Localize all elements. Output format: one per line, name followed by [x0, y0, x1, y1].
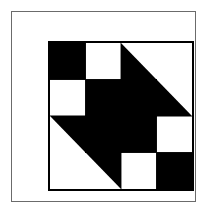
cell-r3c3-black	[156, 152, 192, 189]
cell-r2c2-black	[121, 116, 157, 153]
page-root	[0, 0, 211, 216]
cell-r1c1-black	[85, 79, 121, 116]
outer-frame-border	[11, 11, 196, 202]
quilt-block-artwork	[48, 41, 194, 191]
cell-r0c0-black	[50, 43, 86, 80]
quilt-pattern-svg	[50, 43, 192, 189]
quilt-grid	[50, 43, 192, 189]
cell-r2c1-black	[85, 116, 121, 153]
cell-r1c2-black	[121, 79, 157, 116]
